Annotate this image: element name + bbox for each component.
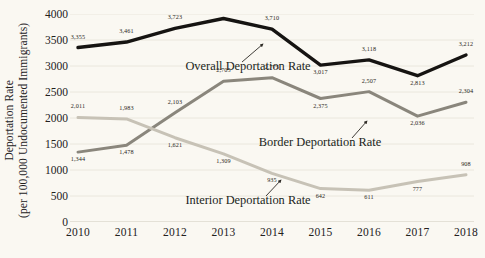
overall-label: Overall Deportation Rate: [185, 59, 311, 73]
y-axis-title-line1: Deportation Rate: [3, 22, 17, 217]
plot-area: 3,3553,4613,7233,9143,7103,0173,1182,813…: [70, 14, 474, 222]
data-label: 3,710: [265, 14, 280, 21]
x-axis-tick-label: 2017: [406, 226, 430, 238]
y-axis-tick-label: 2000: [45, 112, 68, 124]
data-label: 3,212: [459, 40, 474, 47]
data-label: 1,478: [119, 148, 134, 155]
data-label: 2,011: [71, 102, 85, 109]
x-axis-tick-label: 2014: [260, 226, 284, 238]
x-axis-tick-label: 2018: [454, 226, 478, 238]
data-label: 1,309: [216, 157, 231, 164]
data-label: 3,118: [362, 45, 376, 52]
y-axis-tick-label: 4000: [45, 8, 68, 20]
deportation-rate-line-chart: Deportation Rate (per 100,000 Undocument…: [0, 0, 485, 258]
x-axis-tick-label: 2015: [309, 226, 333, 238]
x-axis-tick-label: 2016: [357, 226, 381, 238]
data-label: 611: [364, 193, 374, 200]
data-label: 1,621: [168, 141, 183, 148]
y-axis-tick-labels: 05001000150020002500300035004000: [28, 14, 68, 222]
x-axis-tick-labels: 201020112012201320142015201620172018: [70, 226, 474, 246]
data-label: 642: [316, 192, 326, 199]
data-label: 2,036: [410, 119, 425, 126]
data-label: 1,983: [119, 104, 134, 111]
data-label: 935: [267, 176, 277, 183]
x-axis-tick-label: 2012: [163, 226, 187, 238]
x-axis-tick-label: 2010: [66, 226, 90, 238]
y-axis-tick-label: 3000: [45, 60, 68, 72]
data-label: 3,461: [119, 27, 134, 34]
data-label: 2,813: [410, 79, 425, 86]
data-label: 1,344: [71, 155, 86, 162]
y-axis-tick-label: 3500: [45, 34, 68, 46]
data-label: 3,723: [168, 14, 183, 20]
chart-svg: 3,3553,4613,7233,9143,7103,0173,1182,813…: [70, 14, 474, 222]
data-label: 2,375: [313, 102, 328, 109]
x-axis-tick-label: 2011: [115, 226, 138, 238]
y-axis-tick-label: 1000: [45, 164, 68, 176]
y-axis-tick-label: 500: [51, 190, 68, 202]
data-label: 908: [461, 160, 471, 167]
data-label: 3,017: [313, 68, 328, 75]
y-axis-tick-label: 1500: [45, 138, 68, 150]
data-label: 777: [413, 185, 423, 192]
y-axis-tick-label: 2500: [45, 86, 68, 98]
border-label: Border Deportation Rate: [259, 135, 382, 149]
data-label: 3,355: [71, 33, 86, 40]
data-label: 2,103: [168, 98, 183, 105]
x-axis-tick-label: 2013: [212, 226, 236, 238]
interior-label: Interior Deportation Rate: [185, 193, 311, 207]
data-label: 2,304: [459, 87, 474, 94]
data-label: 2,507: [362, 77, 377, 84]
